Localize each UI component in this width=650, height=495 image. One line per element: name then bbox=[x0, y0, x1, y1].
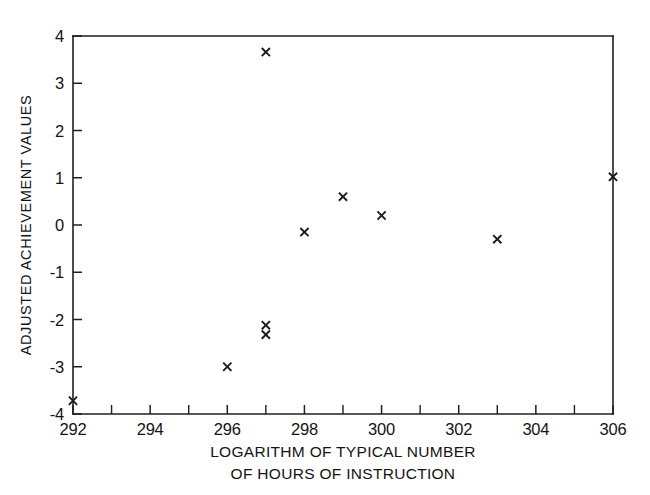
y-axis-tick-labels: -4-3-2-101234 bbox=[50, 27, 64, 423]
x-ticklabel-298: 298 bbox=[291, 420, 318, 438]
plot-frame bbox=[73, 36, 613, 414]
x-ticklabel-304: 304 bbox=[522, 420, 549, 438]
data-point bbox=[223, 363, 231, 371]
y-ticklabel-0: 0 bbox=[55, 216, 64, 234]
x-axis-tick-labels: 292294296298300302304306 bbox=[60, 420, 627, 438]
data-point bbox=[262, 331, 270, 339]
data-point-markers bbox=[69, 48, 617, 405]
y-axis-title: ADJUSTED ACHIEVEMENT VALUES bbox=[18, 95, 34, 356]
x-axis-title-line1: LOGARITHM OF TYPICAL NUMBER bbox=[210, 443, 476, 460]
y-ticklabel--2: -2 bbox=[50, 311, 64, 329]
x-ticklabel-302: 302 bbox=[445, 420, 472, 438]
y-ticklabel-2: 2 bbox=[55, 122, 64, 140]
data-point bbox=[339, 193, 347, 201]
x-ticklabel-300: 300 bbox=[368, 420, 395, 438]
y-ticklabel--1: -1 bbox=[50, 263, 64, 281]
x-axis-ticks bbox=[73, 405, 613, 414]
data-point bbox=[262, 48, 270, 56]
x-ticklabel-292: 292 bbox=[60, 420, 87, 438]
y-axis-ticks bbox=[73, 36, 82, 414]
x-ticklabel-296: 296 bbox=[214, 420, 241, 438]
y-ticklabel--3: -3 bbox=[50, 358, 64, 376]
y-ticklabel-1: 1 bbox=[55, 169, 64, 187]
scatter-plot-figure: -4-3-2-101234 292294296298300302304306 L… bbox=[0, 0, 650, 495]
data-point bbox=[262, 321, 270, 329]
data-point bbox=[493, 235, 501, 243]
data-point bbox=[300, 228, 308, 236]
data-point bbox=[377, 211, 385, 219]
x-axis-title-line2: OF HOURS OF INSTRUCTION bbox=[231, 465, 456, 482]
plot-canvas: -4-3-2-101234 292294296298300302304306 L… bbox=[0, 0, 650, 495]
y-ticklabel-3: 3 bbox=[55, 74, 64, 92]
x-ticklabel-306: 306 bbox=[600, 420, 627, 438]
y-ticklabel-4: 4 bbox=[55, 27, 64, 45]
x-ticklabel-294: 294 bbox=[137, 420, 164, 438]
